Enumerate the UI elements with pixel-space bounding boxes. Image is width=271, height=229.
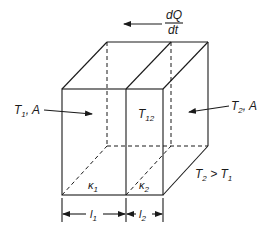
svg-text:T12: T12 xyxy=(138,107,155,123)
svg-text:l2: l2 xyxy=(139,208,146,223)
layer-1-conductivity: κ1 xyxy=(88,179,98,194)
left-face-label: T1, A xyxy=(14,103,40,119)
temperature-condition: T2 > T1 xyxy=(195,167,232,183)
svg-text:T2, A: T2, A xyxy=(231,99,257,115)
layer-1-thickness-label: l1 xyxy=(90,208,97,223)
svg-text:T1, A: T1, A xyxy=(14,103,40,119)
right-face-arrow xyxy=(189,106,229,112)
layer-2-conductivity: κ2 xyxy=(139,179,150,194)
svg-text:κ1: κ1 xyxy=(88,179,98,194)
svg-text:dt: dt xyxy=(168,23,179,37)
svg-text:l1: l1 xyxy=(90,208,97,223)
svg-text:κ2: κ2 xyxy=(139,179,150,194)
interface-label: T12 xyxy=(138,107,155,123)
left-face-arrow xyxy=(44,110,92,114)
svg-text:dQ: dQ xyxy=(166,8,182,22)
composite-slab-diagram: dQ dt T1, A T12 xyxy=(0,0,271,229)
slab-solid-edges xyxy=(62,42,208,195)
right-face-label: T2, A xyxy=(231,99,257,115)
thickness-dimensions xyxy=(62,198,163,222)
heat-flow-label: dQ dt xyxy=(165,8,183,37)
layer-2-thickness-label: l2 xyxy=(139,208,146,223)
svg-text:T2 > T1: T2 > T1 xyxy=(195,167,232,183)
